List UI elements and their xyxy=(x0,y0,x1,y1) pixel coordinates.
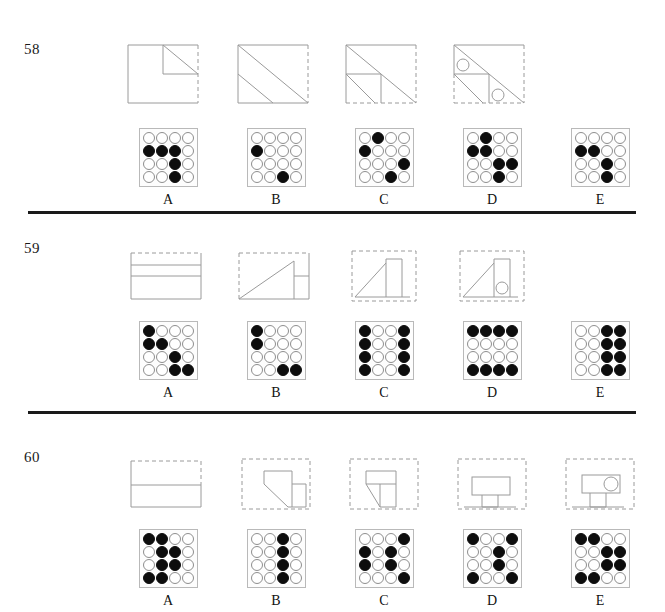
option-60-e[interactable]: E xyxy=(545,525,655,608)
dot-filled xyxy=(601,364,613,376)
dot-grid-59-c xyxy=(329,321,439,380)
figure-row-58 xyxy=(0,38,665,114)
dot-empty xyxy=(385,145,397,157)
dot-empty xyxy=(493,351,505,363)
dot-empty xyxy=(182,132,194,144)
option-letter-59-a: A xyxy=(113,386,223,400)
dot-empty xyxy=(398,559,410,571)
option-letter-59-b: B xyxy=(221,386,331,400)
dot-empty xyxy=(493,132,505,144)
dot-filled xyxy=(467,572,479,584)
dot-empty xyxy=(385,158,397,170)
dot-filled xyxy=(385,546,397,558)
question-block-59: 59 xyxy=(0,215,665,423)
dot-empty xyxy=(182,559,194,571)
figure-cell-60-d xyxy=(437,447,547,519)
dot-filled xyxy=(359,351,371,363)
dot-empty xyxy=(398,546,410,558)
dot-empty xyxy=(467,132,479,144)
dot-empty xyxy=(264,158,276,170)
dot-empty xyxy=(290,533,302,545)
dot-empty xyxy=(264,171,276,183)
dot-empty xyxy=(182,145,194,157)
dot-filled xyxy=(143,145,155,157)
dot-filled xyxy=(398,158,410,170)
dot-empty xyxy=(359,572,371,584)
figure-59-a xyxy=(113,239,223,311)
figure-cell-60-a xyxy=(113,447,223,519)
option-59-c[interactable]: C xyxy=(329,317,439,400)
dot-empty xyxy=(575,171,587,183)
dot-empty xyxy=(264,338,276,350)
dot-filled xyxy=(169,559,181,571)
figure-cell-58-d xyxy=(437,38,547,110)
figure-60-c xyxy=(329,447,439,519)
option-58-b[interactable]: B xyxy=(221,124,331,207)
option-letter-58-c: C xyxy=(329,193,439,207)
dot-empty xyxy=(251,171,263,183)
dot-empty xyxy=(372,158,384,170)
dot-empty xyxy=(480,572,492,584)
dot-empty xyxy=(385,351,397,363)
figure-cell-58-a xyxy=(113,38,223,110)
question-block-58: 58 xyxy=(0,0,665,215)
dot-grid-60-c xyxy=(329,529,439,588)
option-60-b[interactable]: B xyxy=(221,525,331,608)
dot-empty xyxy=(359,158,371,170)
dot-empty xyxy=(588,559,600,571)
dot-empty xyxy=(601,145,613,157)
dot-empty xyxy=(506,171,518,183)
dot-empty xyxy=(385,338,397,350)
figure-cell-58-b xyxy=(221,38,331,110)
option-59-a[interactable]: A xyxy=(113,317,223,400)
option-60-c[interactable]: C xyxy=(329,525,439,608)
dot-empty xyxy=(467,171,479,183)
figure-58-a xyxy=(113,38,223,110)
dot-empty xyxy=(182,171,194,183)
option-letter-58-d: D xyxy=(437,193,547,207)
figure-cell-60-b xyxy=(221,447,331,519)
dot-empty xyxy=(575,546,587,558)
dot-filled xyxy=(290,364,302,376)
dot-filled xyxy=(588,572,600,584)
figure-60-e xyxy=(545,447,655,519)
dot-filled xyxy=(614,364,626,376)
dot-empty xyxy=(385,325,397,337)
dot-empty xyxy=(251,351,263,363)
dot-filled xyxy=(575,533,587,545)
option-59-e[interactable]: E xyxy=(545,317,655,400)
dot-filled xyxy=(480,364,492,376)
figure-60-b xyxy=(221,447,331,519)
worksheet-page: 58 xyxy=(0,0,665,612)
dot-filled xyxy=(493,559,505,571)
option-58-d[interactable]: D xyxy=(437,124,547,207)
figure-58-c xyxy=(329,38,439,110)
dot-empty xyxy=(480,351,492,363)
dot-empty xyxy=(251,364,263,376)
dot-filled xyxy=(601,338,613,350)
option-60-a[interactable]: A xyxy=(113,525,223,608)
option-60-d[interactable]: D xyxy=(437,525,547,608)
dot-empty xyxy=(575,364,587,376)
dot-filled xyxy=(143,325,155,337)
dot-empty xyxy=(372,546,384,558)
dot-filled xyxy=(614,338,626,350)
section-divider-2 xyxy=(28,411,636,414)
section-divider-1 xyxy=(28,211,636,214)
dot-empty xyxy=(385,132,397,144)
option-58-e[interactable]: E xyxy=(545,124,655,207)
dot-filled xyxy=(480,132,492,144)
dot-grid-59-e xyxy=(545,321,655,380)
dot-empty xyxy=(182,351,194,363)
option-58-c[interactable]: C xyxy=(329,124,439,207)
dot-filled xyxy=(251,145,263,157)
option-58-a[interactable]: A xyxy=(113,124,223,207)
dot-filled xyxy=(277,572,289,584)
dot-empty xyxy=(601,533,613,545)
dot-empty xyxy=(588,171,600,183)
option-59-d[interactable]: D xyxy=(437,317,547,400)
dot-empty xyxy=(277,338,289,350)
option-59-b[interactable]: B xyxy=(221,317,331,400)
dot-filled xyxy=(372,132,384,144)
dot-empty xyxy=(588,158,600,170)
